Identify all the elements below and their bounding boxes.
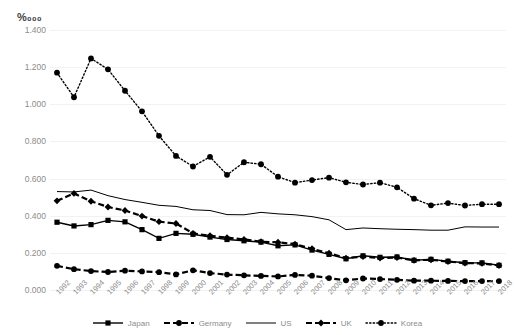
data-point bbox=[428, 278, 434, 284]
data-point bbox=[105, 66, 111, 72]
data-point bbox=[326, 175, 332, 181]
series-korea bbox=[54, 56, 502, 209]
data-point bbox=[394, 277, 400, 283]
y-tick-label: 0.600 bbox=[0, 175, 46, 183]
data-point bbox=[122, 88, 128, 94]
legend-marker bbox=[105, 320, 110, 325]
data-point bbox=[88, 268, 94, 274]
data-point bbox=[275, 274, 281, 280]
data-point bbox=[105, 269, 111, 275]
data-point bbox=[207, 154, 213, 160]
y-tick-label: 1.400 bbox=[0, 26, 46, 34]
data-point bbox=[190, 164, 196, 170]
legend-item-us[interactable]: US bbox=[245, 317, 292, 329]
legend-item-uk[interactable]: UK bbox=[305, 317, 352, 329]
data-point bbox=[139, 213, 146, 220]
legend-swatch-germany-icon bbox=[163, 317, 195, 329]
plot-area bbox=[50, 30, 506, 290]
data-point bbox=[343, 277, 349, 283]
legend-item-germany[interactable]: Germany bbox=[163, 317, 232, 329]
data-point bbox=[139, 227, 144, 232]
data-point bbox=[394, 184, 400, 190]
data-point bbox=[224, 272, 230, 278]
y-tick-label: 0.400 bbox=[0, 212, 46, 220]
data-point bbox=[377, 180, 383, 186]
data-point bbox=[88, 198, 95, 205]
legend-label: US bbox=[281, 319, 292, 328]
legend-label: Germany bbox=[199, 319, 232, 328]
legend-label: UK bbox=[341, 319, 352, 328]
legend-item-japan[interactable]: Japan bbox=[92, 317, 150, 329]
y-tick-label: 0.200 bbox=[0, 249, 46, 257]
legend-swatch-us-icon bbox=[245, 317, 277, 329]
data-point bbox=[309, 177, 315, 183]
data-point bbox=[360, 182, 366, 188]
data-point bbox=[309, 273, 315, 279]
data-point bbox=[122, 207, 129, 214]
data-point bbox=[258, 161, 264, 167]
data-point bbox=[71, 94, 77, 100]
data-point bbox=[54, 197, 61, 204]
data-point bbox=[88, 222, 93, 227]
legend-marker bbox=[317, 320, 324, 327]
series-germany bbox=[54, 263, 502, 284]
data-point bbox=[54, 70, 60, 76]
data-point bbox=[275, 174, 281, 180]
data-point bbox=[71, 266, 77, 272]
legend-swatch-japan-icon bbox=[92, 317, 124, 329]
data-point bbox=[258, 273, 264, 279]
legend-label: Japan bbox=[128, 319, 150, 328]
data-point bbox=[156, 269, 162, 275]
data-point bbox=[156, 133, 162, 139]
data-point bbox=[292, 272, 298, 278]
data-point bbox=[445, 278, 451, 284]
data-point bbox=[173, 272, 179, 278]
data-point bbox=[224, 172, 230, 178]
data-point bbox=[326, 275, 332, 281]
legend-swatch-uk-icon bbox=[305, 317, 337, 329]
data-point bbox=[88, 56, 94, 62]
line-chart: %₀₀₀ 0.0000.2000.4000.6000.8001.0001.200… bbox=[0, 0, 514, 335]
legend-item-korea[interactable]: Korea bbox=[365, 317, 422, 329]
data-point bbox=[292, 180, 298, 186]
chart-legend: JapanGermanyUSUKKorea bbox=[0, 313, 514, 333]
data-point bbox=[122, 219, 127, 224]
data-point bbox=[241, 159, 247, 165]
data-point bbox=[122, 268, 128, 274]
series-uk bbox=[54, 190, 503, 269]
data-point bbox=[139, 269, 145, 275]
data-point bbox=[207, 270, 213, 276]
y-axis-tick-labels: 0.0000.2000.4000.6000.8001.0001.2001.400 bbox=[0, 0, 46, 335]
data-point bbox=[360, 276, 366, 282]
data-point bbox=[71, 223, 76, 228]
y-tick-label: 1.200 bbox=[0, 63, 46, 71]
data-point bbox=[411, 278, 417, 284]
data-point bbox=[54, 263, 60, 269]
data-point bbox=[71, 190, 78, 197]
y-tick-label: 0.000 bbox=[0, 286, 46, 294]
data-point bbox=[428, 202, 434, 208]
legend-label: Korea bbox=[401, 319, 422, 328]
data-point bbox=[173, 231, 178, 236]
data-point bbox=[190, 267, 196, 273]
data-point bbox=[496, 201, 502, 207]
data-point bbox=[445, 200, 451, 206]
data-point bbox=[139, 108, 145, 114]
data-point bbox=[462, 203, 468, 209]
series-lines bbox=[50, 30, 506, 290]
data-point bbox=[156, 236, 161, 241]
data-point bbox=[343, 179, 349, 185]
legend-marker bbox=[176, 320, 182, 326]
data-point bbox=[156, 218, 163, 225]
y-tick-label: 0.800 bbox=[0, 137, 46, 145]
y-tick-label: 1.000 bbox=[0, 100, 46, 108]
data-point bbox=[377, 276, 383, 282]
data-point bbox=[173, 153, 179, 159]
legend-swatch-korea-icon bbox=[365, 317, 397, 329]
data-point bbox=[105, 218, 110, 223]
data-point bbox=[241, 272, 247, 278]
data-point bbox=[54, 220, 59, 225]
data-point bbox=[479, 201, 485, 207]
data-point bbox=[105, 204, 112, 211]
data-point bbox=[411, 196, 417, 202]
